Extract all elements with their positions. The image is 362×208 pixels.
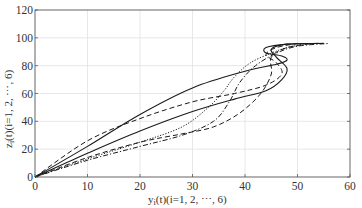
x-tick-label: 10 [82,180,94,192]
y-tick-label: 100 [16,32,34,44]
series-line-agent-4 [35,43,313,177]
series-line-agent-3 [35,43,298,177]
x-tick-label: 0 [32,180,38,192]
series-line-agent-5 [35,43,308,177]
series-group [35,43,329,177]
x-axis-label: yi(t)(i=1, 2, ⋯, 6) [148,193,227,207]
y-tick-label: 60 [22,88,34,100]
x-tick-label: 50 [292,180,304,192]
x-tick-label: 30 [187,180,199,192]
y-tick-label: 80 [22,60,34,72]
y-tick-label: 0 [27,171,33,183]
y-axis-label: zi(t)(i=1, 2, ⋯, 6) [2,70,16,148]
x-tick-label: 20 [134,180,146,192]
x-tick-label: 40 [239,180,251,192]
y-tick-label: 120 [16,4,34,16]
grid-lines [35,10,350,177]
y-tick-label: 40 [22,115,34,127]
trajectory-chart: 0102030405060 020406080100120 yi(t)(i=1,… [0,0,362,208]
y-tick-label: 20 [22,143,34,155]
series-line-agent-2 [35,43,319,177]
x-tick-label: 60 [344,180,356,192]
